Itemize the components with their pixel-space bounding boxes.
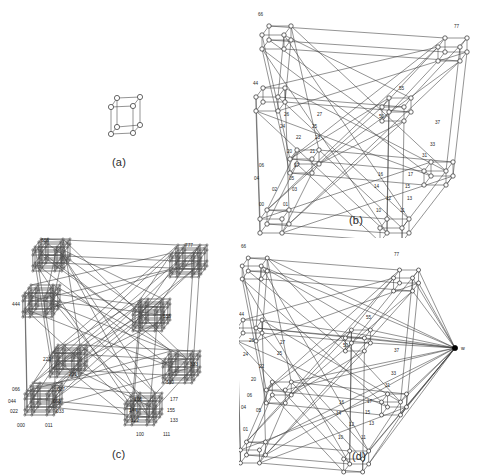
graph-node	[451, 174, 455, 178]
node-label: 666	[41, 238, 49, 243]
graph-edge	[256, 97, 260, 219]
panel-d-nodes	[239, 256, 421, 474]
node-label: 21	[310, 149, 316, 154]
graph-edge	[147, 412, 153, 420]
graph-edge	[256, 328, 369, 451]
graph-node	[362, 349, 366, 353]
graph-node	[265, 269, 269, 273]
graph-edge	[256, 111, 260, 233]
graph-edge	[285, 88, 446, 171]
graph-node	[411, 276, 415, 280]
graph-node	[283, 86, 287, 90]
graph-node	[276, 95, 280, 99]
graph-node	[240, 277, 244, 281]
node-label: 00	[259, 202, 265, 207]
graph-edge	[419, 270, 455, 348]
graph-node	[342, 470, 346, 474]
graph-edge	[192, 264, 198, 272]
node-label: 24	[280, 124, 286, 129]
graph-node	[386, 405, 390, 409]
node-label: 20	[251, 377, 257, 382]
graph-edge	[47, 386, 53, 394]
graph-edge	[401, 278, 413, 402]
graph-edge	[55, 242, 61, 250]
graph-edge	[57, 369, 63, 377]
graph-edge	[185, 370, 191, 378]
graph-node	[405, 405, 409, 409]
graph-node	[310, 157, 314, 161]
caption-b: (b)	[349, 214, 363, 226]
node-label: 01	[243, 427, 249, 432]
node-label: 10	[376, 208, 382, 213]
graph-node	[380, 119, 384, 123]
node-label: 04	[241, 405, 247, 410]
node-label: 055	[53, 399, 61, 404]
graph-node	[451, 160, 455, 164]
graph-node	[265, 208, 269, 212]
graph-node	[392, 289, 396, 293]
graph-node	[411, 289, 415, 293]
graph-edge	[50, 348, 56, 356]
node-label: 066	[12, 387, 20, 392]
graph-node	[265, 222, 269, 226]
graph-edge	[419, 283, 455, 348]
graph-edge	[284, 49, 460, 61]
graph-node	[289, 38, 293, 42]
graph-node	[260, 318, 264, 322]
graph-edge	[23, 309, 29, 317]
graph-edge	[35, 263, 52, 369]
graph-edge	[177, 269, 183, 277]
graph-node	[465, 36, 469, 40]
graph-edge	[266, 330, 351, 390]
node-label: 02	[272, 187, 278, 192]
graph-edge	[413, 291, 455, 348]
graph-edge	[155, 307, 161, 315]
node-label: 01	[283, 202, 289, 207]
graph-node	[405, 392, 409, 396]
node-label: 777	[185, 243, 193, 248]
node-label: 333	[190, 362, 198, 367]
figure-root: (a) 667744555037333126272425222320211617…	[0, 0, 478, 476]
graph-node	[264, 388, 268, 392]
node-label: 011	[45, 423, 53, 428]
graph-node	[295, 148, 299, 152]
graph-node	[399, 413, 403, 417]
graph-node	[288, 157, 292, 161]
graph-edge	[62, 247, 68, 255]
node-label: 03	[292, 187, 298, 192]
graph-node	[392, 276, 396, 280]
node-label: 44	[253, 81, 259, 86]
graph-node	[398, 281, 402, 285]
node-label: 13	[407, 196, 413, 201]
graph-edge	[246, 338, 345, 442]
graph-edge	[260, 162, 431, 219]
graph-node	[387, 110, 391, 114]
graph-node	[349, 341, 353, 345]
graph-node	[367, 449, 371, 453]
node-label: 022	[10, 409, 18, 414]
node-label: 155	[167, 408, 175, 413]
graph-edge	[363, 348, 455, 459]
node-label: 14	[336, 411, 342, 416]
graph-edge	[23, 293, 29, 301]
graph-node	[444, 183, 448, 187]
graph-node	[246, 256, 250, 260]
graph-edge	[47, 407, 53, 415]
graph-node	[270, 380, 274, 384]
graph-edge	[192, 253, 198, 261]
graph-node	[385, 217, 389, 221]
graph-node	[287, 208, 291, 212]
graph-edge	[413, 278, 455, 348]
caption-d: (d)	[352, 450, 366, 462]
graph-node	[263, 440, 267, 444]
graph-edge	[52, 309, 58, 317]
graph-node	[349, 328, 353, 332]
node-label: 222	[43, 357, 51, 362]
graph-edge	[267, 210, 387, 219]
graph-node	[241, 331, 245, 335]
node-label: 77	[394, 252, 400, 257]
graph-node	[267, 24, 271, 28]
graph-node	[244, 440, 248, 444]
node-label: 33	[391, 371, 397, 376]
node-label: 221	[69, 372, 77, 377]
